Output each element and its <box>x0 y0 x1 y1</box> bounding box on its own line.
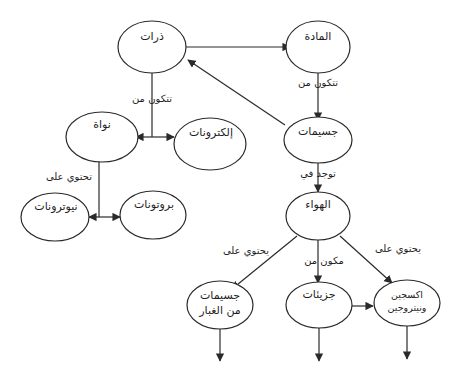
node-label-protons: بروتونات <box>121 198 187 213</box>
edge-label-air-contains-gases: يحتوي على <box>370 243 426 256</box>
edge-particles-to-atoms <box>188 60 285 125</box>
edge-label-matter-consists-of: تتكون من <box>290 77 346 90</box>
node-label-molecules: جزيئات <box>289 288 349 303</box>
node-label-nucleus: نواة <box>72 118 132 133</box>
node-label-dust-particles: جسيمات من الغبار <box>194 289 246 319</box>
node-label-electrons: إلكترونات <box>178 126 244 141</box>
node-label-neutrons: نيوترونات <box>23 200 89 215</box>
diagram-canvas <box>0 0 465 387</box>
edge-label-particles-found-in: توجد في <box>293 168 343 181</box>
node-label-particles: جسيمات <box>288 125 348 140</box>
edge-air-to-dust <box>232 236 297 289</box>
node-label-matter: المادة <box>288 30 348 45</box>
node-label-oxygen-nitrogen: اكسجين ونيتروجين <box>381 289 433 315</box>
node-label-air: الهواء <box>288 198 348 213</box>
edge-label-air-made-of: مكون من <box>298 255 350 268</box>
edge-label-atoms-consist-of: تتكون من <box>124 93 180 106</box>
node-matter <box>286 21 350 73</box>
edge-label-nucleus-contains: تحتوي على <box>38 171 100 184</box>
node-atoms <box>118 21 186 73</box>
node-label-atoms: ذرات <box>122 30 182 45</box>
edge-label-air-contains-dust: يحتوي على <box>218 245 274 258</box>
node-particles <box>284 117 352 163</box>
concept-map: ذرات المادة جسيمات نواة إلكترونات نيوترو… <box>0 0 465 387</box>
